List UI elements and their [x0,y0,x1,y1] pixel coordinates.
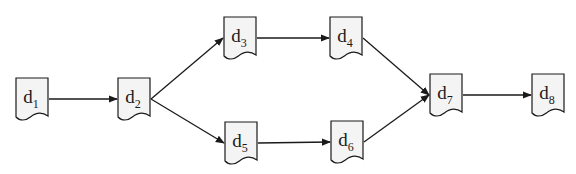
node-label-main: d [231,25,241,46]
node-label-subscript: 3 [241,36,247,50]
node-label-subscript: 8 [549,93,555,107]
node-label-main: d [437,82,447,103]
node-label-main: d [337,25,347,46]
edge-d6-to-d7 [364,95,429,142]
edge-d2-to-d3 [151,38,223,99]
node-label-subscript: 2 [135,97,141,111]
node-label-subscript: 6 [348,140,354,154]
node-label-main: d [232,130,242,151]
node-label-main: d [338,129,348,150]
node-d2: d2 [118,78,150,120]
node-d7: d7 [430,74,462,116]
node-d8: d8 [532,74,564,116]
edge-d5-to-d6 [258,142,330,143]
node-d4: d4 [330,17,362,59]
node-label-main: d [539,82,549,103]
edge-d2-to-d5 [151,99,224,143]
node-label-subscript: 7 [447,93,453,107]
node-label-subscript: 5 [242,141,248,155]
node-label-subscript: 1 [33,97,39,111]
node-d1: d1 [16,78,48,120]
node-label-main: d [125,86,135,107]
edge-d4-to-d7 [363,38,429,95]
flow-diagram: d1d2d3d4d5d6d7d8 [0,0,576,174]
node-label-main: d [23,86,33,107]
node-label-subscript: 4 [347,36,353,50]
node-d6: d6 [331,121,363,163]
node-d3: d3 [224,17,256,59]
node-d5: d5 [225,122,257,164]
